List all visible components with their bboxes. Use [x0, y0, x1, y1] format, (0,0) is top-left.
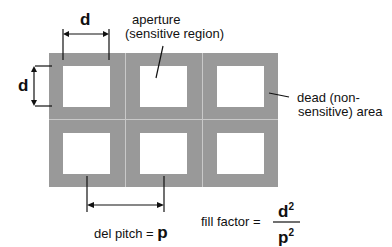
fill-numerator: d2 [278, 200, 294, 219]
pitch-label: del pitch = p [94, 226, 168, 241]
aperture-label: aperture [132, 13, 180, 27]
dead-area-sublabel: sensitive) area [298, 105, 383, 119]
fill-denominator: p2 [278, 226, 294, 245]
pitch-text: del pitch = [94, 226, 154, 241]
dead-area-label: dead (non- [297, 91, 360, 105]
d-width-label: d [80, 13, 90, 27]
pitch-symbol: p [157, 223, 167, 242]
aperture-sublabel: (sensitive region) [125, 27, 224, 41]
fill-factor-label: fill factor = [201, 215, 261, 229]
d-height-label: d [18, 79, 28, 93]
